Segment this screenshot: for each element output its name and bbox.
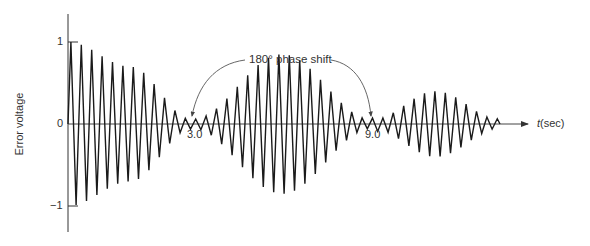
xtick-label-3: 3.0 bbox=[187, 128, 202, 140]
ytick-label-zero: 0 bbox=[57, 117, 63, 129]
x-axis-unit: (sec) bbox=[540, 117, 564, 129]
annotation-phase-shift: 180° phase shift bbox=[249, 53, 332, 65]
x-axis-label: t(sec) bbox=[537, 117, 565, 129]
annotation-arrow-right bbox=[331, 60, 371, 116]
xtick-label-9: 9.0 bbox=[365, 128, 380, 140]
chart-canvas bbox=[0, 0, 590, 246]
ytick-label-neg: −1 bbox=[50, 199, 63, 211]
ytick-label-pos: 1 bbox=[57, 35, 63, 47]
y-axis-label: Error voltage bbox=[13, 79, 25, 169]
